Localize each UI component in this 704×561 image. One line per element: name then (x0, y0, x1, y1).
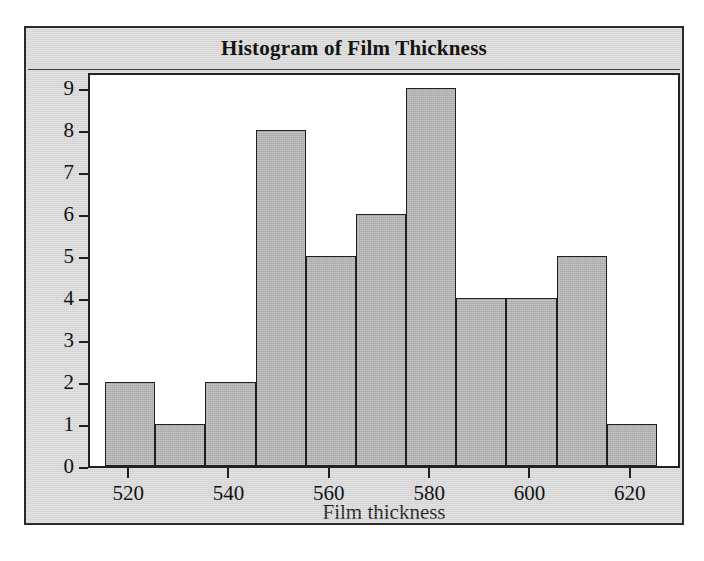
bars-group (90, 75, 678, 466)
histogram-bar (506, 298, 556, 466)
x-tick-mark (629, 468, 631, 478)
chart-title: Histogram of Film Thickness (26, 36, 682, 61)
histogram-bar (205, 382, 255, 466)
histogram-bar (155, 424, 205, 466)
x-tick-label: 580 (402, 481, 456, 506)
y-tick-label: 2 (64, 370, 75, 395)
histogram-bar (105, 382, 155, 466)
y-tick-mark (79, 299, 88, 301)
x-tick-mark (428, 468, 430, 478)
y-tick-mark (79, 89, 88, 91)
y-tick-label: 1 (64, 412, 75, 437)
x-tick-label: 540 (201, 481, 255, 506)
y-tick-label: 9 (64, 76, 75, 101)
histogram-bar (557, 256, 607, 466)
y-tick-mark (79, 257, 88, 259)
x-axis-title: Film thickness (88, 500, 680, 525)
x-tick-label: 600 (502, 481, 556, 506)
histogram-bar (607, 424, 657, 466)
histogram-bar (406, 88, 456, 466)
plot-area (88, 73, 680, 468)
histogram-bar (256, 130, 306, 466)
y-tick-mark (79, 425, 88, 427)
title-divider (28, 69, 680, 70)
histogram-bar (306, 256, 356, 466)
y-tick-mark (79, 131, 88, 133)
y-tick-label: 7 (64, 160, 75, 185)
y-tick-mark (79, 383, 88, 385)
x-tick-label: 620 (603, 481, 657, 506)
figure-panel: Histogram of Film Thickness Frequency 01… (24, 26, 684, 525)
x-tick-mark (528, 468, 530, 478)
histogram-bar (456, 298, 506, 466)
y-tick-label: 0 (64, 454, 75, 479)
y-tick-label: 8 (64, 118, 75, 143)
x-tick-label: 520 (101, 481, 155, 506)
y-tick-mark (79, 341, 88, 343)
x-tick-mark (328, 468, 330, 478)
x-tick-mark (227, 468, 229, 478)
y-tick-mark (79, 215, 88, 217)
y-tick-label: 5 (64, 244, 75, 269)
y-tick-label: 6 (64, 202, 75, 227)
histogram-bar (356, 214, 406, 466)
y-tick-label: 4 (64, 286, 75, 311)
x-tick-mark (127, 468, 129, 478)
y-tick-mark (79, 467, 88, 469)
y-tick-mark (79, 173, 88, 175)
y-tick-label: 3 (64, 328, 75, 353)
histogram-figure: Histogram of Film Thickness Frequency 01… (0, 0, 704, 561)
x-tick-label: 560 (302, 481, 356, 506)
